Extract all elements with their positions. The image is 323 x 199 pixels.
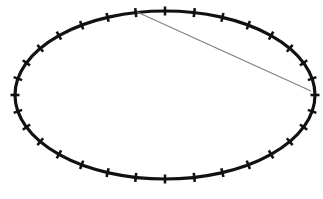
figure-background (0, 0, 323, 199)
ellipse-figure (0, 0, 323, 199)
